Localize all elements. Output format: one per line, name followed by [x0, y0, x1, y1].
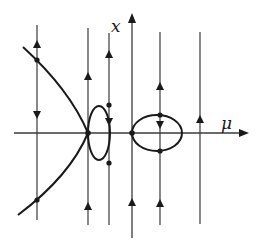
arrow-up-icon: [128, 198, 136, 206]
arrow-down-icon: [156, 121, 164, 129]
arrow-up-icon: [105, 50, 113, 58]
x-axis-label: x: [111, 16, 121, 36]
arrow-up-icon: [196, 115, 204, 123]
arrow-up-icon: [156, 82, 164, 90]
parabola-branch: [18, 47, 88, 215]
flow-lines: [37, 25, 200, 225]
arrow-up-icon: [33, 40, 41, 48]
mu-axis-label: μ: [221, 113, 232, 133]
bifurcation-diagram: x μ: [0, 0, 261, 246]
arrow-up-icon: [156, 199, 164, 207]
arrow-down-icon: [33, 111, 41, 119]
arrow-up-icon: [84, 72, 92, 80]
arrow-up-icon: [84, 202, 92, 210]
